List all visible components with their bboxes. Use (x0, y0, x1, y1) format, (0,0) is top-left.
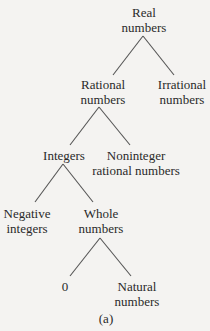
edge-real-irrational (143, 36, 174, 75)
node-label-line1: Noninteger (92, 148, 180, 163)
node-label-line1: Rational (81, 77, 126, 92)
edge-rational-integers (70, 107, 99, 145)
node-label-line2: numbers (115, 294, 160, 309)
node-zero: 0 (62, 279, 69, 294)
node-label-line2: integers (4, 221, 51, 236)
node-label-line2: numbers (81, 92, 126, 107)
edge-integers-negative (35, 164, 63, 202)
node-whole-numbers: Whole numbers (79, 206, 124, 236)
node-irrational-numbers: Irrational numbers (158, 77, 206, 107)
number-classification-tree: Real numbers Rational numbers Irrational… (0, 0, 210, 331)
figure-caption: (a) (99, 311, 113, 326)
node-negative-integers: Negative integers (4, 206, 51, 236)
node-rational-numbers: Rational numbers (81, 77, 126, 107)
node-label-line1: Real (122, 5, 167, 20)
node-noninteger-rational-numbers: Noninteger rational numbers (92, 148, 180, 178)
node-label-line1: Negative (4, 206, 51, 221)
node-label-line1: Natural (115, 279, 160, 294)
node-natural-numbers: Natural numbers (115, 279, 160, 309)
node-label-line2: rational numbers (92, 163, 180, 178)
node-label-line1: Integers (43, 148, 85, 163)
edge-whole-natural (100, 238, 131, 276)
node-label-line2: numbers (122, 20, 167, 35)
edge-whole-zero (70, 238, 100, 276)
edge-integers-whole (63, 164, 93, 202)
node-label-line1: Whole (79, 206, 124, 221)
node-real-numbers: Real numbers (122, 5, 167, 35)
edge-real-rational (113, 36, 143, 75)
node-label-line2: numbers (158, 92, 206, 107)
node-label-line1: Irrational (158, 77, 206, 92)
node-label-line2: numbers (79, 221, 124, 236)
node-label-line1: 0 (62, 279, 69, 294)
edge-rational-noninteger (99, 107, 130, 145)
node-integers: Integers (43, 148, 85, 163)
